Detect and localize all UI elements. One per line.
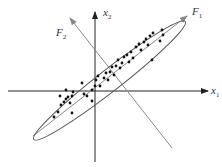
- data-point: [103, 77, 106, 80]
- data-point: [151, 59, 154, 62]
- data-point: [119, 67, 122, 70]
- data-point: [111, 66, 114, 69]
- data-point: [147, 44, 150, 47]
- data-point: [63, 101, 66, 104]
- data-point: [97, 75, 100, 78]
- data-point: [123, 56, 126, 59]
- data-point: [143, 41, 146, 44]
- f2-label: F2: [55, 26, 67, 41]
- data-point: [161, 29, 164, 32]
- data-point: [152, 32, 155, 35]
- data-point: [109, 71, 112, 74]
- pca-diagram: x2 F1 F2 x1: [0, 0, 222, 167]
- data-point: [59, 95, 62, 98]
- data-point: [113, 74, 116, 77]
- data-point: [91, 100, 94, 103]
- x2-label: x2: [102, 6, 112, 21]
- data-point: [60, 104, 63, 107]
- data-point: [72, 91, 75, 94]
- data-point: [86, 95, 89, 98]
- data-point: [117, 59, 120, 62]
- data-point: [105, 72, 108, 75]
- data-point: [162, 34, 165, 37]
- data-point: [83, 93, 86, 96]
- data-point: [71, 112, 74, 115]
- confidence-ellipse: [27, 13, 192, 148]
- data-point: [81, 82, 84, 85]
- data-point: [128, 61, 131, 64]
- f1-label: F1: [191, 5, 203, 20]
- data-point: [94, 85, 97, 88]
- data-point: [67, 96, 70, 99]
- x1-label: x1: [210, 84, 220, 99]
- f2-axis: [70, 18, 172, 148]
- data-point: [138, 43, 141, 46]
- data-point: [135, 46, 138, 49]
- data-point: [53, 116, 56, 119]
- data-point: [71, 95, 74, 98]
- data-point: [91, 89, 94, 92]
- data-point: [121, 62, 124, 65]
- data-point: [107, 79, 110, 82]
- data-point: [115, 65, 118, 68]
- data-point: [99, 85, 102, 88]
- data-point: [149, 35, 152, 38]
- data-point: [57, 111, 60, 114]
- data-point: [130, 51, 133, 54]
- data-point: [69, 102, 72, 105]
- data-point: [65, 98, 68, 101]
- data-point: [95, 79, 98, 82]
- data-point: [126, 54, 129, 57]
- data-point: [140, 49, 143, 52]
- data-point: [159, 40, 162, 43]
- data-point: [145, 38, 148, 41]
- data-point: [132, 57, 135, 60]
- data-points: [53, 29, 165, 119]
- data-point: [65, 89, 68, 92]
